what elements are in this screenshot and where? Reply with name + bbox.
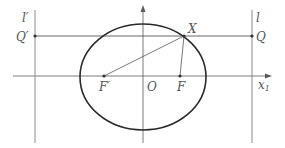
label-x-point: X	[187, 22, 197, 36]
label-x-axis-subscript: 1	[265, 84, 270, 93]
y-axis-arrow-icon	[141, 5, 146, 12]
segment-f-x	[180, 36, 184, 76]
point-q-prime	[33, 34, 36, 37]
point-f	[178, 74, 181, 77]
segment-f-prime-x	[104, 36, 184, 76]
point-q	[250, 34, 253, 37]
ellipse-directrix-diagram: l′ Q′ l Q X F′ O F x1	[0, 0, 285, 148]
x-axis-arrow-icon	[265, 74, 272, 79]
label-l-prime: l′	[22, 11, 29, 25]
point-x	[182, 34, 185, 37]
point-f-prime	[102, 74, 105, 77]
label-x-axis: x1	[258, 78, 270, 93]
label-q-prime: Q′	[16, 30, 29, 44]
label-l: l	[256, 11, 260, 25]
label-f-prime: F′	[98, 80, 110, 94]
label-origin: O	[147, 80, 157, 94]
label-q: Q	[256, 30, 266, 44]
label-f: F	[176, 80, 186, 94]
